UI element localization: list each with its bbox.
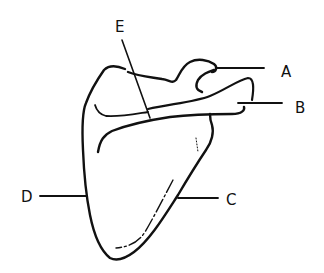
superior-border — [128, 60, 216, 82]
label-C: C — [226, 193, 236, 208]
lateral-marks — [196, 138, 198, 152]
supraspinous-fossa-line — [95, 105, 148, 116]
label-E: E — [115, 20, 124, 35]
leader-line-E — [122, 40, 150, 118]
scapula-diagram — [0, 0, 324, 273]
label-D: D — [21, 190, 33, 205]
scapula-outline — [82, 66, 212, 259]
label-A: A — [281, 65, 291, 80]
label-B: B — [295, 101, 305, 116]
scapular-spine-upper — [148, 78, 253, 109]
scapular-spine-lower — [98, 107, 244, 152]
coracoid-process — [196, 70, 214, 92]
